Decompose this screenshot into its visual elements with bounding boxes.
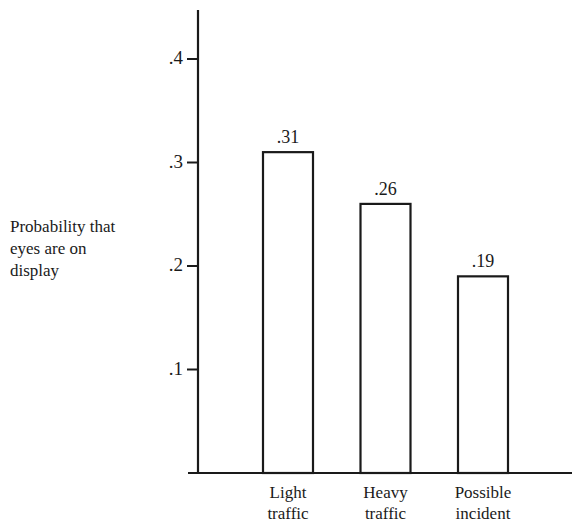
category-label-line: incident	[438, 503, 528, 524]
y-axis-label-line: eyes are on	[10, 238, 115, 260]
bars	[263, 152, 508, 473]
bar	[263, 152, 313, 473]
category-label-line: traffic	[243, 503, 333, 524]
y-tick-label: .1	[143, 359, 183, 379]
bar-value-label: .19	[453, 251, 513, 271]
category-label-line: Light	[243, 482, 333, 503]
bar	[458, 276, 508, 473]
y-ticks	[187, 59, 198, 370]
bar	[361, 204, 411, 473]
category-label: Lighttraffic	[243, 482, 333, 524]
bar-value-label: .26	[356, 179, 416, 199]
bar-value-label: .31	[258, 127, 318, 147]
category-label-line: Possible	[438, 482, 528, 503]
y-tick-label: .4	[143, 48, 183, 68]
category-label: Heavytraffic	[341, 482, 431, 524]
category-label-line: traffic	[341, 503, 431, 524]
y-tick-label: .3	[143, 152, 183, 172]
y-tick-label: .2	[143, 255, 183, 275]
y-axis-label-line: Probability that	[10, 216, 115, 238]
y-axis-label-line: display	[10, 260, 115, 282]
category-label-line: Heavy	[341, 482, 431, 503]
category-label: Possibleincident	[438, 482, 528, 524]
y-axis-label: Probability that eyes are on display	[10, 216, 115, 282]
